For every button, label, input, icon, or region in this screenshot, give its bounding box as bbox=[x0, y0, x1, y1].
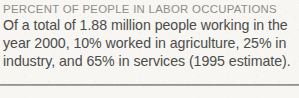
section-heading: PERCENT OF PEOPLE IN LABOR OCCUPATIONS bbox=[3, 2, 296, 16]
fact-body-text: Of a total of 1.88 million people workin… bbox=[3, 16, 295, 71]
labor-occupations-fact-card: PERCENT OF PEOPLE IN LABOR OCCUPATIONS O… bbox=[0, 0, 299, 98]
body-line: year 2000, 10% worked in agriculture, 25… bbox=[3, 34, 295, 52]
section-divider-rule bbox=[0, 84, 299, 86]
body-line: industry, and 65% in services (1995 esti… bbox=[3, 52, 295, 70]
body-line: Of a total of 1.88 million people workin… bbox=[3, 16, 295, 34]
